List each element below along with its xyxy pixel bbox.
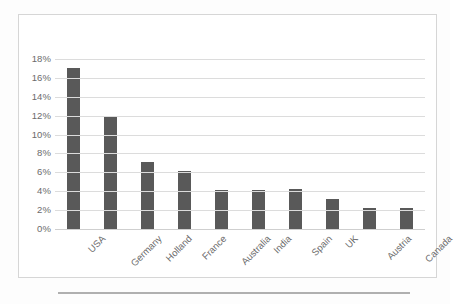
bar-austria[interactable] (363, 208, 376, 229)
x-axis-label-holland: Holland (163, 233, 194, 264)
y-axis-tick-label: 14% (19, 92, 51, 102)
x-axis-label-usa: USA (85, 233, 107, 255)
bar-uk[interactable] (326, 199, 339, 229)
y-axis-tick-label: 16% (19, 73, 51, 83)
x-axis-label-uk: UK (342, 233, 359, 250)
y-axis-tick-label: 10% (19, 130, 51, 140)
x-axis-label-germany: Germany (128, 233, 163, 268)
bottom-divider-rule (58, 292, 410, 294)
y-axis: 0%2%4%6%8%10%12%14%16%18% (19, 15, 51, 279)
gridline (55, 229, 425, 230)
y-axis-tick-label: 8% (19, 149, 51, 159)
bars-layer (55, 59, 425, 229)
x-axis-label-australia: Australia (238, 233, 272, 267)
bar-france[interactable] (178, 171, 191, 229)
gridline (55, 97, 425, 98)
gridline (55, 153, 425, 154)
x-axis-label-austria: Austria (384, 233, 413, 262)
y-axis-tick-label: 18% (19, 54, 51, 64)
gridline (55, 135, 425, 136)
y-axis-tick-label: 6% (19, 168, 51, 178)
x-axis-labels: USAGermanyHollandFranceAustraliaIndiaSpa… (55, 231, 425, 279)
x-axis-label-france: France (199, 233, 228, 262)
chart-plot-wrapper: 0%2%4%6%8%10%12%14%16%18% USAGermanyHoll… (19, 15, 438, 279)
y-axis-tick-label: 4% (19, 186, 51, 196)
y-axis-tick-label: 12% (19, 111, 51, 121)
chart-frame: 0%2%4%6%8%10%12%14%16%18% USAGermanyHoll… (18, 14, 437, 278)
y-axis-tick-label: 2% (19, 205, 51, 215)
gridline (55, 59, 425, 60)
gridline (55, 191, 425, 192)
plot-area (55, 59, 425, 229)
x-axis-label-india: India (271, 233, 293, 255)
gridline (55, 172, 425, 173)
gridline (55, 78, 425, 79)
gridline (55, 116, 425, 117)
x-axis-label-spain: Spain (309, 233, 334, 258)
gridline (55, 210, 425, 211)
bar-canada[interactable] (400, 208, 413, 229)
y-axis-tick-label: 0% (19, 224, 51, 234)
bar-usa[interactable] (67, 68, 80, 229)
